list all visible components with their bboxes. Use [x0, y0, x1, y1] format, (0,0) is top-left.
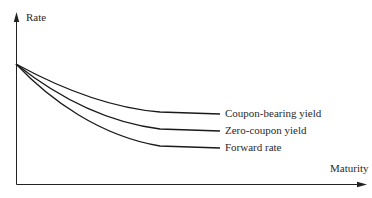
forward-rate-label: Forward rate [225, 142, 282, 153]
x-axis-label: Maturity [330, 163, 369, 174]
term-structure-diagram [0, 0, 372, 198]
zero-coupon-yield-label: Zero-coupon yield [225, 125, 307, 136]
y-axis-arrow-icon [14, 12, 19, 22]
y-axis-label: Rate [26, 12, 46, 23]
x-axis-arrow-icon [357, 182, 367, 187]
coupon-bearing-yield-curve [16, 64, 220, 114]
coupon-bearing-yield-label: Coupon-bearing yield [225, 108, 321, 119]
zero-coupon-yield-curve [16, 64, 220, 131]
forward-rate-curve [16, 64, 220, 148]
